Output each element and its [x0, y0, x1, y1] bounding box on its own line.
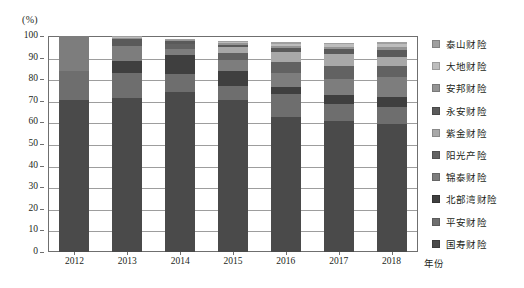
gridline	[49, 167, 417, 168]
y-tick-mark	[40, 209, 44, 210]
y-tick-mark	[40, 79, 44, 80]
legend-swatch-icon	[432, 218, 440, 226]
x-tick-mark	[127, 252, 128, 255]
legend-item-label: 国寿财险	[446, 237, 487, 251]
x-axis: 2012201320142015201620172018	[48, 254, 418, 274]
y-tick-label: 10	[29, 226, 39, 236]
legend-swatch-icon	[432, 62, 440, 70]
y-tick-label: 90	[29, 53, 39, 63]
y-tick-label: 40	[29, 161, 39, 171]
legend-item[interactable]: 平安财险	[432, 211, 524, 233]
legend-item-label: 大地财险	[446, 59, 487, 73]
y-tick-label: 100	[24, 31, 38, 41]
legend-item[interactable]: 锦泰财险	[432, 166, 524, 188]
gridline	[49, 210, 417, 211]
y-axis-unit-label: (%)	[22, 14, 38, 25]
y-tick-mark	[40, 230, 44, 231]
y-tick-label: 20	[29, 204, 39, 214]
x-tick-label: 2012	[65, 256, 84, 266]
y-tick-mark	[40, 166, 44, 167]
y-tick-mark	[40, 122, 44, 123]
x-tick-label: 2013	[118, 256, 137, 266]
x-tick-label: 2015	[224, 256, 243, 266]
legend: 泰山财险大地财险安邦财险永安财险紫金财险阳光产险锦泰财险北部湾财险平安财险国寿财…	[432, 33, 524, 255]
gridline	[49, 145, 417, 146]
legend-item-label: 安邦财险	[446, 81, 487, 95]
legend-item-label: 阳光产险	[446, 148, 487, 162]
legend-swatch-icon	[432, 195, 440, 203]
legend-swatch-icon	[432, 173, 440, 181]
y-axis: 1009080706050403020100	[0, 36, 44, 252]
legend-item-label: 锦泰财险	[446, 170, 487, 184]
legend-item-label: 永安财险	[446, 104, 487, 118]
gridline	[49, 59, 417, 60]
legend-item[interactable]: 紫金财险	[432, 122, 524, 144]
legend-item[interactable]: 永安财险	[432, 100, 524, 122]
stacked-bar-chart: (%) 1009080706050403020100 2012201320142…	[0, 0, 524, 288]
legend-item[interactable]: 国寿财险	[432, 233, 524, 255]
x-tick-mark	[74, 252, 75, 255]
legend-swatch-icon	[432, 107, 440, 115]
plot-area	[48, 36, 418, 252]
legend-item[interactable]: 阳光产险	[432, 144, 524, 166]
legend-swatch-icon	[432, 151, 440, 159]
y-tick-label: 60	[29, 118, 39, 128]
y-tick-mark	[40, 58, 44, 59]
y-tick-mark	[40, 252, 44, 253]
x-tick-label: 2017	[329, 256, 348, 266]
y-tick-mark	[40, 144, 44, 145]
legend-swatch-icon	[432, 40, 440, 48]
gridline	[49, 80, 417, 81]
y-tick-mark	[40, 36, 44, 37]
legend-swatch-icon	[432, 84, 440, 92]
y-tick-mark	[40, 101, 44, 102]
x-tick-mark	[392, 252, 393, 255]
gridline	[49, 102, 417, 103]
y-tick-label: 0	[33, 247, 38, 257]
legend-swatch-icon	[432, 129, 440, 137]
gridline	[49, 231, 417, 232]
x-tick-mark	[286, 252, 287, 255]
x-axis-title: 年份	[424, 256, 444, 270]
y-tick-label: 80	[29, 74, 39, 84]
x-tick-mark	[233, 252, 234, 255]
legend-item-label: 平安财险	[446, 215, 487, 229]
gridline	[49, 188, 417, 189]
x-tick-mark	[180, 252, 181, 255]
legend-item[interactable]: 大地财险	[432, 55, 524, 77]
legend-item-label: 紫金财险	[446, 126, 487, 140]
legend-item[interactable]: 北部湾财险	[432, 188, 524, 210]
x-tick-label: 2016	[276, 256, 295, 266]
legend-item-label: 泰山财险	[446, 37, 487, 51]
x-tick-label: 2018	[382, 256, 401, 266]
legend-swatch-icon	[432, 240, 440, 248]
x-tick-label: 2014	[171, 256, 190, 266]
x-tick-mark	[339, 252, 340, 255]
gridline	[49, 123, 417, 124]
gridlines	[49, 37, 417, 251]
y-tick-label: 70	[29, 96, 39, 106]
legend-item-label: 北部湾财险	[446, 192, 497, 206]
legend-item[interactable]: 泰山财险	[432, 33, 524, 55]
y-tick-mark	[40, 187, 44, 188]
y-tick-label: 30	[29, 182, 39, 192]
y-tick-label: 50	[29, 139, 39, 149]
legend-item[interactable]: 安邦财险	[432, 77, 524, 99]
